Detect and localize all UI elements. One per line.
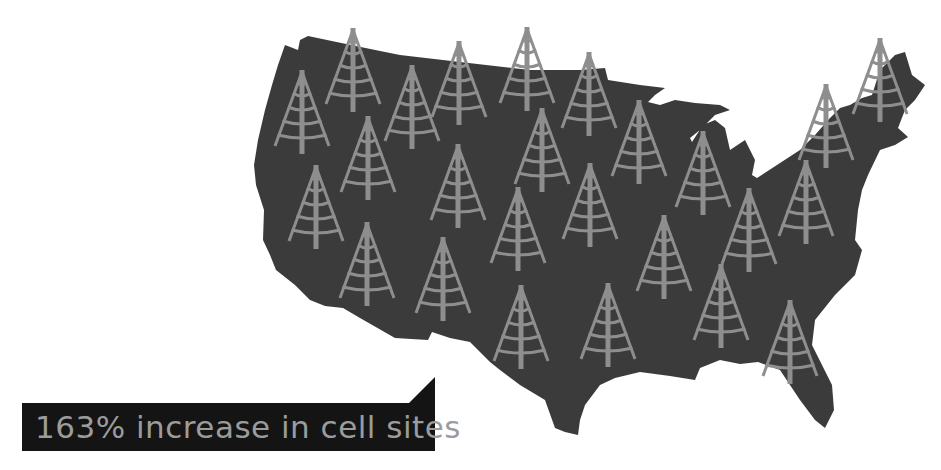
us-map — [0, 0, 941, 470]
caption-text: 163% increase in cell sites — [35, 405, 461, 449]
infographic: 163% increase in cell sites — [0, 0, 941, 470]
label-notch — [409, 377, 435, 403]
